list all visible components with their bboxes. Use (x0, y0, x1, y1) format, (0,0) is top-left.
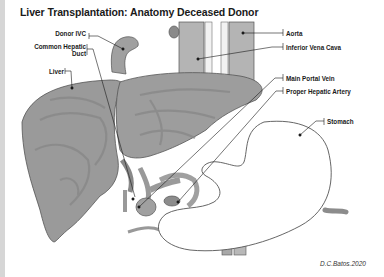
label-stomach: Stomach (327, 118, 354, 125)
donor-ivc-shape (111, 37, 138, 74)
author-credit: D.C.Batos.2020 (320, 260, 366, 267)
label-liver: Liver (30, 68, 64, 75)
label-donor-ivc: Donor IVC (48, 30, 86, 37)
label-main-portal-vein: Main Portal Vein (286, 75, 335, 82)
label-inferior-vena-cava: Inferior Vena Cava (286, 44, 341, 51)
label-common-hepatic-duct-line2: Duct (26, 50, 86, 57)
label-proper-hepatic-artery: Proper Hepatic Artery (286, 88, 351, 95)
liver-right-lobe (22, 80, 123, 242)
label-aorta: Aorta (286, 30, 302, 37)
label-common-hepatic-duct-line1: Common Hepatic (26, 43, 86, 50)
liver-anatomy-illustration (0, 0, 384, 277)
